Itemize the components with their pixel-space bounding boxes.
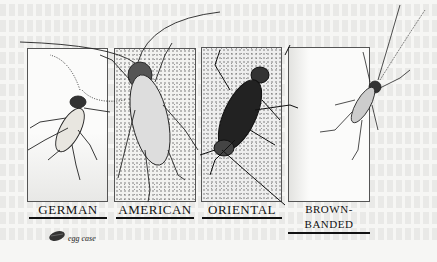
brown-banded-cockroach-icon <box>320 5 425 160</box>
egg-case-icon <box>48 230 66 242</box>
label-brown-banded: BROWN-BANDED <box>288 202 370 234</box>
cockroach-illustrations <box>0 0 437 262</box>
label-american: AMERICAN <box>116 202 194 219</box>
oriental-cockroach-icon <box>200 45 298 205</box>
american-cockroach-icon <box>20 12 220 202</box>
egg-case-label: egg case <box>68 234 96 243</box>
label-oriental: ORIENTAL <box>202 202 282 219</box>
label-german: GERMAN <box>29 202 107 219</box>
german-cockroach-icon <box>28 55 125 180</box>
